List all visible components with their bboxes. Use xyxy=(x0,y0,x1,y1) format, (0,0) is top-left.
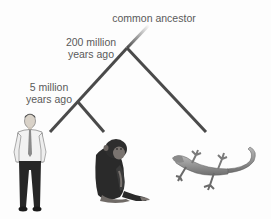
human-figure-icon xyxy=(10,112,50,214)
common-ancestor-label: common ancestor xyxy=(108,12,200,24)
node-200-line2: years ago xyxy=(62,48,120,60)
root-branch xyxy=(127,24,150,48)
node-5-line2: years ago xyxy=(20,93,78,105)
diagram-canvas: common ancestor 200 million years ago 5 … xyxy=(0,0,271,219)
lizard-icon xyxy=(172,143,262,198)
node-5-line1: 5 million xyxy=(20,81,78,93)
branch-lizard xyxy=(127,48,206,132)
common-ancestor-text: common ancestor xyxy=(108,12,200,24)
branch-chimpanzee xyxy=(78,102,104,132)
node-200-label: 200 million years ago xyxy=(62,36,120,60)
node-200-line1: 200 million xyxy=(62,36,120,48)
node-5-label: 5 million years ago xyxy=(20,81,78,105)
chimpanzee-icon xyxy=(86,135,156,205)
